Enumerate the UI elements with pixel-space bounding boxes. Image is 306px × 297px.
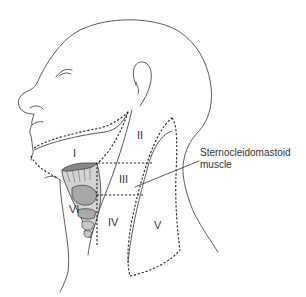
nostril <box>30 106 43 109</box>
level-label-iv: IV <box>108 216 119 228</box>
neck-front <box>60 180 69 292</box>
level-v-boundary <box>128 118 180 276</box>
neck-levels-diagram: I II III IV V VI Sternocleidomastoid mus… <box>0 0 306 297</box>
callout-leader <box>135 161 199 187</box>
callout-text-line2: muscle <box>200 159 232 170</box>
level-label-v: V <box>154 219 162 231</box>
face-profile <box>18 83 37 160</box>
level-label-iii: III <box>119 173 128 185</box>
scm-posterior <box>128 131 172 262</box>
jaw-line <box>34 112 128 150</box>
level-label-vi: VI <box>69 203 79 215</box>
eyelid <box>59 73 71 76</box>
mouth <box>32 122 43 125</box>
ear <box>133 62 151 106</box>
level-label-i: I <box>73 147 76 159</box>
larynx-thyroid <box>62 163 101 238</box>
callout-text-line1: Sternocleidomastoid <box>200 147 291 158</box>
level-label-ii: II <box>137 129 143 141</box>
neck-front-inner <box>45 176 60 180</box>
